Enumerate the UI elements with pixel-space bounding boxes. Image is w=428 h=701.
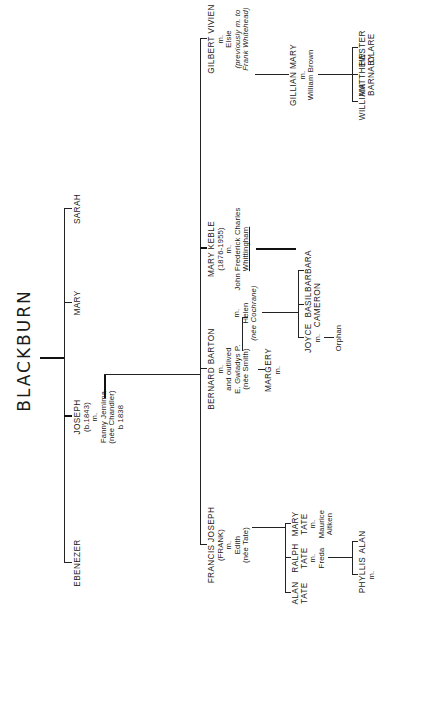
marriage: m. [368, 557, 377, 593]
person-joseph: JOSEPH (b.1843) m. Fanny Jemima (née Cha… [74, 390, 126, 443]
gen2-tick-gilbert [200, 38, 207, 39]
name: SARAH [74, 194, 83, 224]
name-line2: CLARE [368, 30, 377, 66]
person-ralph-tate: RALPH TATE m. Freda [292, 543, 326, 572]
person-ebenezer: EBENEZER [74, 539, 83, 586]
person-helen: m. Helen (née Cochrane) [233, 285, 259, 341]
spouse-nee: (née Tate) [242, 507, 251, 584]
helen-descent-line [262, 312, 298, 313]
name-line2: TATE [301, 582, 310, 605]
ralph-children-bar [352, 541, 353, 575]
mary-keble-descent-line [256, 248, 296, 250]
person-alan-tate: ALAN TATE [292, 582, 309, 605]
spouse: Freda [318, 543, 327, 572]
name: EBENEZER [74, 539, 83, 586]
person-phyllis: PHYLLIS m. [359, 557, 376, 593]
name-line2: CAMERON [314, 283, 323, 328]
spouse-line2: Aitken [326, 510, 335, 538]
gillian-descent-line [318, 74, 352, 75]
family-tree-page: BLACKBURN EBENEZER JOSEPH (b.1843) m. Fa… [0, 0, 428, 701]
gen2-tick-frank [200, 544, 207, 545]
gen2-tick-mary-keble [200, 247, 207, 249]
ralph-descent-line [328, 557, 352, 558]
spouse-note-2: Frank Whitehead) [242, 4, 251, 73]
person-francis-joseph: FRANCIS JOSEPH (FRANK) m. Edith (née Tat… [208, 507, 251, 584]
person-orphan: Orphan [335, 325, 344, 352]
family-name-title: BLACKBURN [14, 0, 34, 701]
root-line [40, 357, 64, 359]
person-margery: MARGERY m. [265, 348, 282, 392]
spouse-dates: b 1838 [117, 390, 126, 443]
person-hester-clare: HESTER CLARE [359, 30, 376, 66]
gen1-tick-sarah [64, 208, 72, 209]
frank-descent-line [252, 527, 285, 528]
person-mary-keble: MARY KEBLE (1876-1955) m. John Frederick… [208, 208, 251, 291]
spouse: William Brown [307, 44, 316, 106]
name: BARBARA [305, 250, 314, 292]
gilbert-descent-line [255, 74, 289, 75]
person-mary: MARY [74, 290, 83, 315]
joseph-marriage-line [104, 374, 106, 398]
person-mary-tate: MARY TATE m. Maurice Aitken [292, 510, 335, 538]
spouse: Orphan [335, 325, 344, 352]
person-sarah: SARAH [74, 194, 83, 224]
spouse-nee: (née Cochrane) [250, 285, 259, 341]
name: ALAN [359, 531, 368, 554]
gen2-tick-bernard [200, 368, 207, 369]
joyce-marriage-line [324, 337, 334, 338]
person-joyce: JOYCE m. [305, 323, 322, 352]
gen1-tick-joseph [64, 415, 72, 417]
person-alan: ALAN [359, 531, 368, 554]
name: MARY [74, 290, 83, 315]
gen1-tick-ebenezer [64, 562, 72, 563]
person-gilbert-vivien: GILBERT VIVIEN m. Elsie (previously m. t… [208, 4, 251, 73]
marriage: m. [314, 323, 323, 352]
frank-children-bar [285, 523, 286, 593]
gen2-sibling-bar [200, 38, 201, 545]
person-barbara: BARBARA [305, 250, 314, 292]
spouse-line2: Whittingham [242, 208, 251, 291]
gen1-tick-mary [64, 302, 72, 303]
gen1-sibling-bar [64, 208, 65, 563]
joseph-descent-line [104, 374, 200, 375]
marriage: m. [274, 348, 283, 392]
person-gillian-mary: GILLIAN MARY m. William Brown [290, 44, 316, 106]
